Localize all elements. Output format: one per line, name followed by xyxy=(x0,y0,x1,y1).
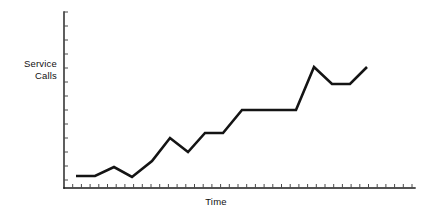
x-axis-label-text: Time xyxy=(205,196,227,207)
x-axis-label: Time xyxy=(0,196,426,207)
axis-group xyxy=(64,12,415,188)
y-axis-label-line-1: Service xyxy=(0,58,57,70)
line-chart-figure: Service Calls Time xyxy=(0,0,426,214)
y-axis-label: Service Calls xyxy=(0,58,57,82)
data-series-line-service-calls xyxy=(76,67,367,177)
y-axis-label-line-2: Calls xyxy=(0,70,57,82)
chart-canvas xyxy=(0,0,426,214)
